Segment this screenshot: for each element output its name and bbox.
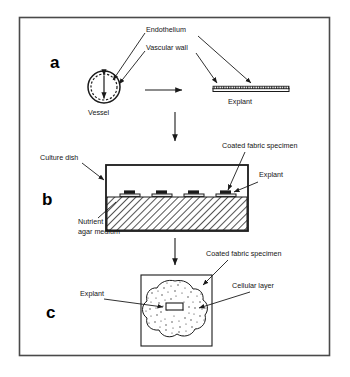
panel-b-culture-dish-label: Culture dish [40,153,78,162]
leader-vascular-wall-to-explant [196,53,217,83]
panel-a-endothelium-label: Endothelium [146,25,186,34]
panel-a-vascular-wall-label: Vascular wall [146,43,188,52]
explant-strip [213,86,289,91]
panel-c-letter: c [46,303,55,322]
nutrient-agar-medium [107,197,247,230]
panel-c: c [46,249,282,346]
figure-panel-diagram: a Vessel Endothelium Vascular wall Expla… [0,0,350,377]
panel-a-vessel-label: Vessel [88,108,110,117]
panel-b-nutrient-label-line1: Nutrient [78,217,103,226]
panel-a-explant-label: Explant [228,97,252,106]
leader-coated-fabric-specimen-c [203,260,228,285]
cellular-layer-blob [143,280,208,337]
panel-c-cellular-layer-label: Cellular layer [232,281,275,290]
panel-a-letter: a [50,53,60,72]
leader-culture-dish [82,163,104,180]
explant-center [166,303,183,310]
panel-b-nutrient-label-line2: agar medium [78,227,120,236]
panel-c-explant-label: Explant [80,289,104,298]
panel-a: a Vessel Endothelium Vascular wall Expla… [50,25,289,117]
panel-b: b Culture dish Coated fabric specimen [40,141,298,236]
panel-c-coated-fabric-label: Coated fabric specimen [206,249,282,258]
leader-vascular-wall-to-vessel [119,51,145,84]
panel-b-letter: b [42,190,52,209]
panel-b-explant-label: Explant [259,170,283,179]
leader-endothelium-to-explant [198,36,251,83]
panel-b-coated-fabric-label: Coated fabric specimen [222,141,298,150]
